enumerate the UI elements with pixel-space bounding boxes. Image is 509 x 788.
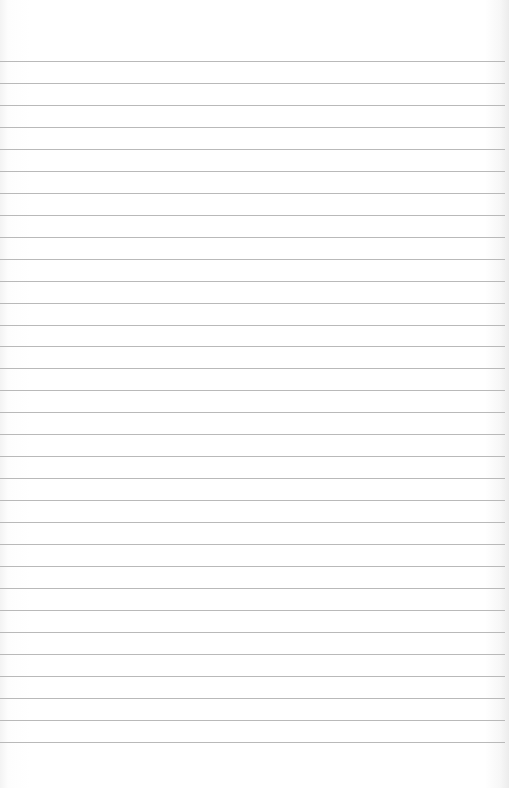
ruled-line: [0, 720, 505, 721]
ruled-line: [0, 127, 505, 128]
ruled-line: [0, 368, 505, 369]
ruled-line: [0, 259, 505, 260]
ruled-line: [0, 325, 505, 326]
ruled-line: [0, 149, 505, 150]
ruled-line: [0, 303, 505, 304]
ruled-line: [0, 105, 505, 106]
ruled-line: [0, 588, 505, 589]
ruled-line: [0, 610, 505, 611]
ruled-line: [0, 478, 505, 479]
ruled-line: [0, 742, 505, 743]
ruled-line: [0, 500, 505, 501]
ruled-line: [0, 522, 505, 523]
ruled-line: [0, 654, 505, 655]
ruled-line: [0, 632, 505, 633]
ruled-line: [0, 193, 505, 194]
ruled-line: [0, 171, 505, 172]
ruled-line: [0, 544, 505, 545]
ruled-line: [0, 412, 505, 413]
ruled-line: [0, 698, 505, 699]
ruled-line: [0, 237, 505, 238]
ruled-line: [0, 346, 505, 347]
lined-paper-sheet: [0, 0, 509, 788]
ruled-line: [0, 281, 505, 282]
ruled-line: [0, 390, 505, 391]
ruled-line: [0, 83, 505, 84]
ruled-line: [0, 676, 505, 677]
ruled-line: [0, 456, 505, 457]
ruled-line: [0, 215, 505, 216]
ruled-line: [0, 434, 505, 435]
ruled-line: [0, 566, 505, 567]
ruled-line: [0, 61, 505, 62]
